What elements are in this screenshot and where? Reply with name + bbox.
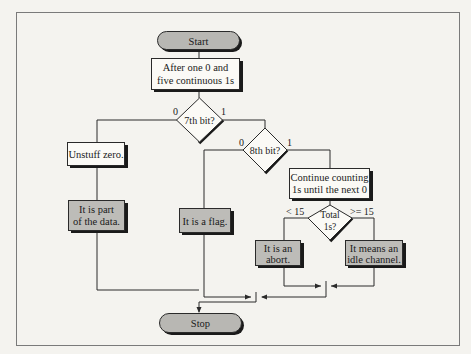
abort-line1: It is an [264, 243, 293, 254]
unstuff-label: Unstuff zero. [68, 149, 123, 160]
after-zero-line2: five continuous 1s [157, 75, 234, 86]
seventh-bit-branch-zero: 0 [173, 106, 178, 117]
decision-total-ones: Total 1s? < 15 >= 15 [286, 205, 374, 241]
process-unstuff-zero: Unstuff zero. [68, 143, 129, 169]
idle-line2: idle channel. [347, 254, 401, 265]
eighth-bit-label: 8th bit? [250, 145, 281, 156]
arrowheads [197, 284, 338, 314]
stop-terminal: Stop [160, 314, 245, 336]
result-idle-channel: It means an idle channel. [346, 241, 407, 269]
result-abort: It is an abort. [256, 241, 305, 269]
continue-line1: Continue counting [291, 172, 370, 183]
flag-label: It is a flag. [183, 216, 228, 227]
part-of-data-line2: of the data. [73, 216, 120, 227]
result-part-of-data: It is part of the data. [69, 201, 129, 234]
seventh-bit-label: 7th bit? [184, 115, 215, 126]
total-ones-line2: 1s? [324, 222, 337, 232]
start-label: Start [189, 36, 209, 47]
total-branch-ge: >= 15 [350, 206, 374, 217]
total-ones-line1: Total [320, 210, 340, 220]
after-zero-line1: After one 0 and [163, 62, 229, 73]
eighth-bit-branch-one: 1 [287, 137, 292, 148]
decision-eighth-bit: 8th bit? 0 1 [239, 128, 292, 173]
part-of-data-line1: It is part [79, 204, 114, 215]
process-continue-counting: Continue counting 1s until the next 0 [290, 169, 374, 202]
total-branch-less: < 15 [286, 206, 304, 217]
flowchart: Start After one 0 and five continuous 1s… [0, 0, 471, 354]
process-after-zero: After one 0 and five continuous 1s [152, 59, 244, 93]
eighth-bit-branch-zero: 0 [239, 137, 244, 148]
idle-line1: It means an [350, 243, 399, 254]
abort-line2: abort. [266, 254, 290, 265]
decision-seventh-bit: 7th bit? 0 1 [173, 98, 226, 143]
continue-line2: 1s until the next 0 [292, 184, 367, 195]
stop-label: Stop [191, 318, 210, 329]
start-terminal: Start [158, 32, 243, 53]
seventh-bit-branch-one: 1 [221, 106, 226, 117]
result-flag: It is a flag. [180, 209, 235, 236]
